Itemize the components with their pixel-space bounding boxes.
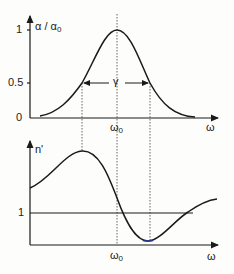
bottom-ytick-1: 1 — [18, 207, 24, 218]
bottom-xlabel: ω — [207, 251, 216, 262]
top-ytick-0.5: 0.5 — [8, 77, 23, 88]
top-xtick-omega0: ω0 — [110, 122, 123, 135]
top-ytick-1: 1 — [16, 24, 22, 35]
top-ytick-0: 0 — [16, 112, 22, 123]
curve-minimum-accent — [143, 241, 153, 242]
bottom-axes — [30, 141, 218, 245]
diagram-canvas — [0, 0, 234, 274]
absorption-curve — [40, 30, 195, 117]
bottom-ylabel: n' — [35, 144, 43, 155]
top-xlabel: ω — [206, 122, 215, 133]
bottom-xtick-omega0: ω0 — [110, 250, 123, 263]
refractive-index-curve — [30, 151, 217, 241]
gamma-label: γ — [113, 76, 119, 87]
top-ylabel: α / α0 — [35, 21, 61, 34]
